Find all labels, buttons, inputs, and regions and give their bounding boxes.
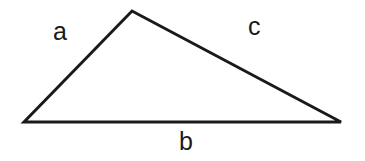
triangle-figure: a c b [0,0,365,161]
side-label-c: c [248,14,261,39]
side-label-a: a [53,19,67,44]
side-label-b: b [179,129,193,154]
triangle-outline [24,11,341,122]
